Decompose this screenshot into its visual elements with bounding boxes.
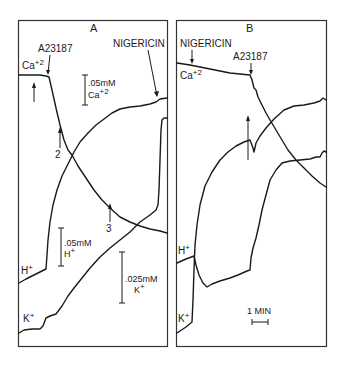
panel-a-h-scale-bar: .05mM H+ xyxy=(58,228,92,266)
panel-b-k-label: K+ xyxy=(178,311,190,324)
arrow-head-icon xyxy=(46,70,50,75)
panel-a-pt3-label: 3 xyxy=(106,223,112,234)
panel-a-h-label: H+ xyxy=(21,263,33,276)
svg-text:Ca+2: Ca+2 xyxy=(88,87,109,100)
panel-b-nigericin-label: NIGERICIN xyxy=(180,38,232,49)
panel-a-k-trace xyxy=(19,118,167,333)
panel-b-k-trace xyxy=(177,98,326,333)
panel-b-h-label: H+ xyxy=(178,243,190,256)
arrow-head-icon xyxy=(246,115,250,121)
panel-b-time-scale-bar: 1 MIN xyxy=(247,306,271,325)
panel-a-h-trace xyxy=(19,98,167,283)
panel-b-ca-trace xyxy=(177,63,326,187)
panel-a: A A23187 Ca+2 NIGERICIN 2 3 .05mM xyxy=(19,22,167,333)
panel-b-a23187-label: A23187 xyxy=(233,51,268,62)
panel-a-title: A xyxy=(90,22,98,34)
panel-a-k-label: K+ xyxy=(23,311,35,324)
panel-b-title: B xyxy=(246,22,253,34)
panel-a-ca-scale-bar: .05mM Ca+2 xyxy=(82,75,116,105)
panel-b: B NIGERICIN A23187 Ca+2 H+ K+ 1 MIN xyxy=(177,22,326,333)
panel-a-nigericin-arrow xyxy=(148,50,157,96)
arrow-head-icon xyxy=(32,82,36,88)
panel-b-h-trace xyxy=(177,151,326,287)
panel-a-a23187-label: A23187 xyxy=(38,43,73,54)
panel-a-pt2-label: 2 xyxy=(55,149,61,160)
panel-a-ca-label: Ca+2 xyxy=(22,58,44,71)
panel-a-nigericin-label: NIGERICIN xyxy=(113,38,165,49)
arrow-head-icon xyxy=(190,59,194,64)
arrow-head-icon xyxy=(249,70,253,75)
svg-text:.05mM: .05mM xyxy=(64,238,92,248)
figure: A A23187 Ca+2 NIGERICIN 2 3 .05mM xyxy=(0,0,344,365)
svg-text:1 MIN: 1 MIN xyxy=(247,306,271,316)
arrow-head-icon xyxy=(154,91,159,97)
panel-a-frame xyxy=(19,21,168,347)
panel-b-ca-label: Ca+2 xyxy=(180,68,202,81)
panel-a-k-scale-bar: .025mM K+ xyxy=(119,252,158,303)
